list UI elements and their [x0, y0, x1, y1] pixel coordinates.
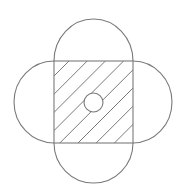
hatch-line: [57, 0, 186, 196]
left-semicircle: [14, 61, 54, 143]
hatch-line: [3, 0, 186, 196]
diagonal-hatching: [0, 0, 186, 196]
hatch-line: [0, 0, 185, 196]
hatch-line: [21, 0, 186, 196]
hatch-line: [0, 0, 166, 196]
hatch-line: [0, 0, 130, 196]
bottom-semicircle: [54, 143, 133, 183]
geometric-diagram: [0, 0, 186, 196]
top-semicircle: [54, 19, 133, 61]
right-semicircle: [133, 61, 172, 143]
